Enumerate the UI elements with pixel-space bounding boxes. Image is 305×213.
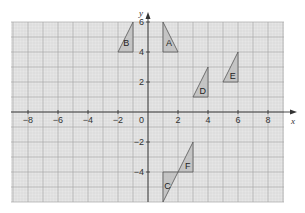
triangle-label-d: D — [200, 86, 207, 96]
x-tick-label: −6 — [53, 115, 63, 125]
x-tick-label: −2 — [113, 115, 123, 125]
x-tick-label: −4 — [83, 115, 93, 125]
grid-svg: ABCDEF xy−8−6−4−22468642−2−40 — [0, 0, 305, 213]
triangle-label-e: E — [230, 71, 236, 81]
y-tick-label: 4 — [139, 47, 144, 57]
triangle-label-c: C — [164, 181, 171, 191]
x-tick-label: −8 — [23, 115, 33, 125]
origin-label: 0 — [139, 115, 144, 125]
y-tick-label: −4 — [134, 167, 144, 177]
x-tick-label: 4 — [205, 115, 210, 125]
triangle-label-b: B — [123, 38, 129, 48]
y-axis-arrow-icon — [146, 12, 151, 19]
x-tick-label: 2 — [175, 115, 180, 125]
x-axis-arrow-icon — [290, 110, 297, 115]
x-axis-label: x — [290, 116, 295, 126]
x-tick-label: 6 — [235, 115, 240, 125]
coordinate-grid-diagram: ABCDEF xy−8−6−4−22468642−2−40 — [0, 0, 305, 213]
triangle-label-a: A — [166, 38, 172, 48]
x-tick-label: 8 — [265, 115, 270, 125]
y-tick-label: 2 — [139, 77, 144, 87]
y-tick-label: −2 — [134, 137, 144, 147]
triangle-label-f: F — [185, 161, 191, 171]
y-tick-label: 6 — [139, 17, 144, 27]
